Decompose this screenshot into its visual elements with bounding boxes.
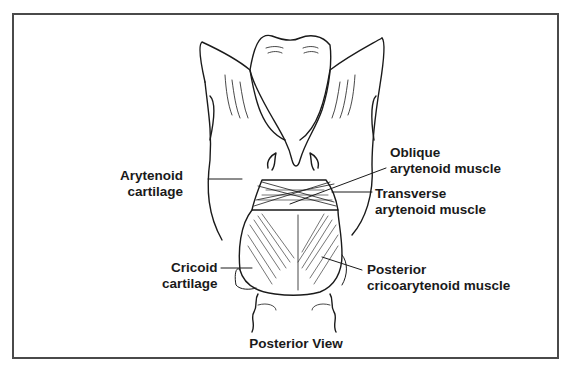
leader-lines (208, 168, 386, 270)
label-line: cartilage (120, 184, 183, 200)
label-line: Transverse (375, 186, 486, 202)
label-line: Cricoid (162, 260, 218, 276)
label-cricoid-cartilage: Cricoid cartilage (162, 260, 218, 292)
trachea (252, 294, 336, 332)
label-line: Arytenoid (120, 168, 183, 184)
label-line: Posterior (367, 262, 510, 278)
view-title: Posterior View (248, 336, 344, 352)
label-arytenoid-cartilage: Arytenoid cartilage (120, 168, 183, 200)
label-line: arytenoid muscle (375, 202, 486, 218)
corniculate-right (310, 153, 318, 170)
corniculate-left (268, 153, 276, 170)
label-line: Oblique (390, 145, 501, 161)
label-line: arytenoid muscle (390, 161, 501, 177)
epiglottis (250, 35, 331, 166)
arytenoid-muscles (252, 180, 338, 210)
label-transverse-arytenoid-muscle: Transverse arytenoid muscle (375, 186, 486, 218)
label-posterior-cricoarytenoid-muscle: Posterior cricoarytenoid muscle (367, 262, 510, 294)
label-oblique-arytenoid-muscle: Oblique arytenoid muscle (390, 145, 501, 177)
label-line: cartilage (162, 276, 218, 292)
label-line: cricoarytenoid muscle (367, 278, 510, 294)
posterior-cricoarytenoid-hatching (248, 214, 338, 284)
